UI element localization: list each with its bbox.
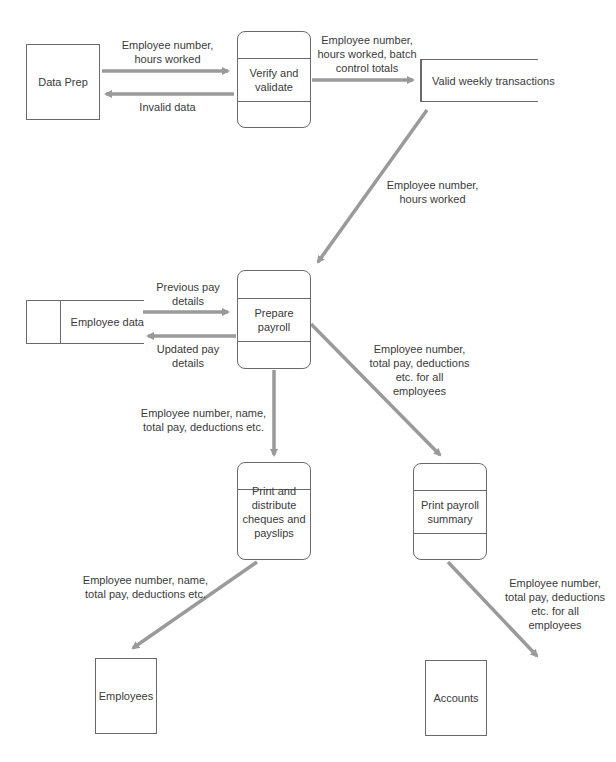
store-valid-weekly-transactions: Valid weekly transactions: [420, 59, 538, 102]
entity-label: Data Prep: [38, 76, 88, 88]
flow-label-prepare-to-summary: Employee number, total pay, deductions e…: [362, 342, 477, 398]
entity-label: Employees: [99, 690, 153, 702]
process-print-distribute: Print and distribute cheques and payslip…: [237, 462, 311, 560]
flow-label-invalid-data: Invalid data: [110, 100, 225, 114]
flow-label-prepare-to-print: Employee number, name, total pay, deduct…: [136, 406, 271, 434]
flow-label-store-to-prepare: Employee number, hours worked: [380, 178, 485, 206]
store-label: Employee data: [61, 301, 144, 343]
flow-label-previous-pay: Previous pay details: [148, 280, 228, 308]
flow-label-print-to-employees: Employee number, name, total pay, deduct…: [78, 573, 213, 601]
entity-label: Accounts: [433, 692, 478, 704]
process-label: Print payroll summary: [417, 498, 483, 526]
entity-accounts: Accounts: [425, 660, 487, 736]
store-label: Valid weekly transactions: [422, 60, 555, 101]
flow-label-updated-pay: Updated pay details: [148, 342, 228, 370]
process-label: Verify and validate: [241, 66, 307, 94]
entity-data-prep: Data Prep: [26, 44, 100, 120]
process-verify-validate: Verify and validate: [237, 31, 311, 128]
process-label: Print and distribute cheques and payslip…: [241, 484, 307, 540]
process-print-summary: Print payroll summary: [413, 463, 487, 560]
process-label: Prepare payroll: [241, 306, 307, 334]
flow-label-verify-to-store: Employee number, hours worked, batch con…: [312, 33, 422, 75]
flow-label-summary-to-accounts: Employee number, total pay, deductions e…: [495, 576, 615, 632]
store-employee-data: Employee data: [26, 300, 144, 344]
process-prepare-payroll: Prepare payroll: [237, 270, 311, 369]
entity-employees: Employees: [95, 658, 157, 734]
flow-label-dataprep-to-verify: Employee number, hours worked: [110, 38, 225, 66]
